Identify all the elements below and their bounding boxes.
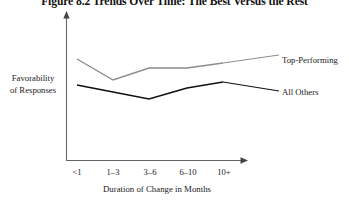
x-tick-label-1: 1–3: [107, 167, 120, 177]
leader-line-top-performing: [223, 55, 279, 63]
x-tick-label-2: 3–6: [144, 167, 157, 177]
y-axis-label-line1: Favorability: [2, 73, 64, 85]
leader-line-all-others: [223, 82, 279, 91]
series-all-others: [77, 82, 279, 99]
y-axis-arrowhead: [63, 11, 69, 19]
figure-container: Figure 8.2 Trends Over Time: The Best Ve…: [0, 0, 349, 201]
x-axis-label: Duration of Change in Months: [66, 184, 248, 194]
line-chart-plot: [0, 0, 349, 201]
series-line-top-performing: [77, 59, 223, 80]
y-axis-label: Favorability of Responses: [2, 73, 64, 96]
series-line-all-others: [77, 82, 223, 99]
x-axis: [66, 157, 248, 163]
series-label-top-performing: Top-Performing: [282, 55, 338, 65]
y-axis: [63, 11, 69, 161]
x-tick-label-3: 6–10: [179, 167, 196, 177]
x-tick-label-0: <1: [72, 167, 81, 177]
x-tick-label-4: 10+: [217, 167, 230, 177]
series-label-all-others: All Others: [282, 87, 318, 97]
x-axis-arrowhead: [241, 157, 249, 163]
series-top-performing: [77, 55, 279, 80]
y-axis-label-line2: of Responses: [2, 85, 64, 97]
